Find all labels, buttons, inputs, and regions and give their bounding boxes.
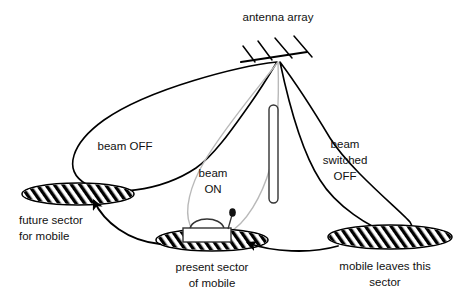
label-beam-on-line1: beam xyxy=(199,167,228,179)
antenna-array xyxy=(241,36,312,62)
label-mobile-leaves-line2: sector xyxy=(369,276,400,288)
mobile-vehicle xyxy=(183,208,236,242)
sector-future xyxy=(22,183,134,205)
motion-arrow-present-to-future xyxy=(94,201,160,244)
label-mobile-leaves-line1: mobile leaves this xyxy=(339,260,431,272)
label-beam-switched-off-line2: switched xyxy=(323,154,368,166)
label-present-sector-line2: of mobile xyxy=(189,277,236,289)
label-future-sector-line2: for mobile xyxy=(19,230,70,242)
label-antenna-array: antenna array xyxy=(243,11,314,23)
diagram-canvas: antenna array beam OFF beam ON beam swit… xyxy=(0,0,463,300)
label-beam-switched-off-line3: OFF xyxy=(334,170,357,182)
beam-switching-diagram: antenna array beam OFF beam ON beam swit… xyxy=(0,0,463,300)
tower xyxy=(269,105,278,203)
label-beam-on-line2: ON xyxy=(204,183,221,195)
label-future-sector-line1: future sector xyxy=(19,214,83,226)
sector-mobile-leaves xyxy=(328,225,452,249)
left-beam-lobe xyxy=(73,62,277,191)
label-beam-off-left: beam OFF xyxy=(98,140,153,152)
label-beam-switched-off-line1: beam xyxy=(331,138,360,150)
label-present-sector-line1: present sector xyxy=(176,261,249,273)
